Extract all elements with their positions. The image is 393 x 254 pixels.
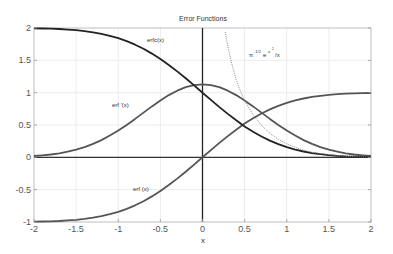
x-tick-label: 0.5 <box>238 224 251 234</box>
y-tick-label: 2 <box>26 23 31 33</box>
chart-background <box>0 0 393 254</box>
x-tick-label: 0 <box>200 224 205 234</box>
annotation-asym-exp2: -x <box>267 49 270 54</box>
error-functions-chart: -2-1.5-1-0.500.511.52-1-0.500.511.52 Err… <box>0 0 393 254</box>
x-tick-label: -0.5 <box>153 224 169 234</box>
annotation-asym-tail: /x <box>275 52 280 58</box>
y-tick-label: 1.5 <box>18 55 31 65</box>
x-tick-label: 1.5 <box>323 224 336 234</box>
x-tick-label: -1 <box>114 224 122 234</box>
y-tick-label: 0.5 <box>18 120 31 130</box>
annotation-erf: erf (x) <box>133 186 149 192</box>
x-tick-label: -2 <box>30 224 38 234</box>
annotation-asym-exp1: -1/2 <box>254 49 262 54</box>
y-tick-label: 1 <box>26 88 31 98</box>
annotation-erfc: erfc(x) <box>147 37 164 43</box>
x-tick-label: 1 <box>284 224 289 234</box>
chart-title: Error Functions <box>179 15 227 22</box>
x-tick-label: 2 <box>368 224 373 234</box>
y-tick-label: -0.5 <box>15 185 31 195</box>
annotation-erf-derivative: erf '(x) <box>112 102 129 108</box>
y-tick-label: -1 <box>23 217 31 227</box>
x-axis-label: x <box>201 236 205 245</box>
annotation-asym-pi: π <box>249 52 253 58</box>
y-tick-label: 0 <box>26 152 31 162</box>
x-tick-label: -1.5 <box>68 224 84 234</box>
